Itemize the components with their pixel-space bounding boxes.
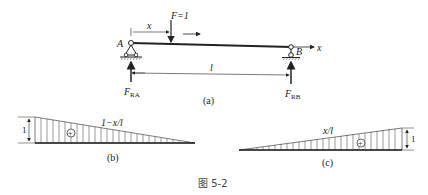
- influence-line-diagram: x A B F=1 x l: [0, 0, 428, 195]
- ordinate-label: 1: [411, 134, 416, 144]
- label-b: B: [296, 46, 302, 57]
- dist-x-label: x: [146, 20, 152, 31]
- span-label: l: [210, 62, 213, 73]
- expression-label: 1−x/l: [101, 117, 123, 128]
- sub-caption-c: (c): [322, 157, 333, 169]
- label-a: A: [116, 38, 124, 49]
- sub-caption-a: (a): [203, 95, 214, 107]
- reaction-a-label: FRA: [123, 86, 140, 99]
- load-label: F=1: [170, 10, 189, 21]
- influence-line-rb: 1 + x/l (c): [239, 125, 416, 169]
- sign-plus: +: [358, 139, 363, 148]
- expression-label: x/l: [322, 125, 333, 136]
- span-dimension: [133, 73, 289, 75]
- ordinate-label: 1: [22, 125, 27, 135]
- axis-x-label: x: [316, 42, 322, 53]
- beam: [131, 43, 292, 47]
- beam-diagram: x A B F=1 x l: [116, 10, 322, 107]
- figure-caption: 图 5-2: [198, 178, 228, 189]
- reaction-b-label: FRB: [284, 88, 301, 101]
- sub-caption-b: (b): [107, 152, 119, 164]
- sign-plus: +: [68, 129, 73, 138]
- influence-line-ra: 1 + 1−x/l (b): [18, 117, 195, 164]
